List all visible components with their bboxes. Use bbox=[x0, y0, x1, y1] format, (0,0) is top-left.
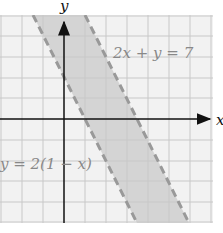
label-2x-plus-y-equals-7: 2x + y = 7 bbox=[112, 44, 194, 62]
y-axis-label: y bbox=[59, 0, 69, 15]
inequality-graph: y x 2x + y = 7 y = 2(1 − x) bbox=[0, 0, 223, 233]
x-axis-label: x bbox=[216, 111, 223, 129]
label-y-equals-2-1-minus-x: y = 2(1 − x) bbox=[0, 155, 92, 173]
